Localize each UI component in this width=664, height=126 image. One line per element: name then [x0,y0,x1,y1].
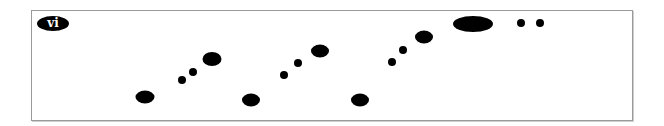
dot-shape [388,58,396,66]
dot-shape [536,19,544,27]
panel-frame [31,10,633,121]
ellipse-shape [203,52,222,66]
dot-shape [178,76,186,84]
ellipse-shape [136,91,155,104]
ellipse-shape [351,94,369,107]
dot-shape [517,19,525,27]
large-ellipse-shape [453,16,493,32]
panel-label-badge: vi [37,16,69,31]
ellipse-shape [415,31,433,44]
dot-shape [294,59,302,67]
ellipse-shape [311,45,329,58]
dot-shape [280,71,288,79]
dot-shape [189,68,197,76]
ellipse-shape [242,94,260,107]
dot-shape [399,46,407,54]
